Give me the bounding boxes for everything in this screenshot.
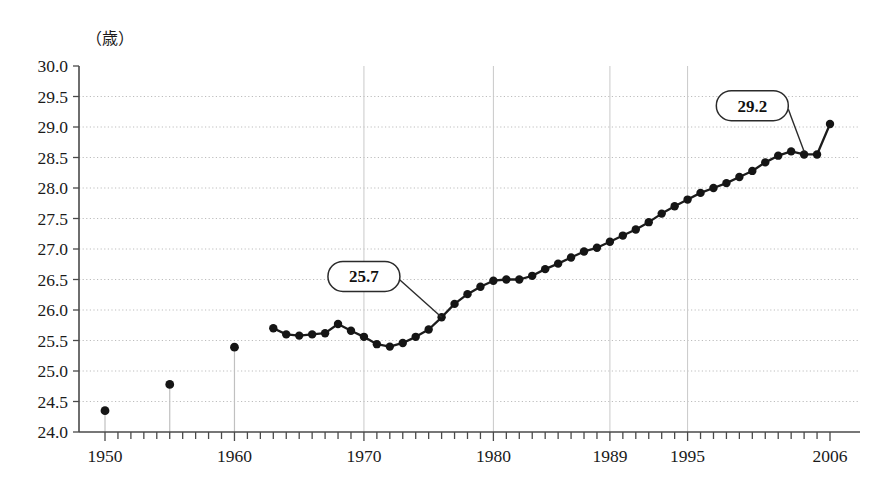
data-point-1972	[386, 342, 394, 350]
data-point-1963	[269, 324, 277, 332]
y-axis-tick-labels: 30.029.529.028.528.027.527.026.526.025.5…	[37, 56, 68, 442]
data-point-1970	[360, 333, 368, 341]
data-point-1966	[308, 330, 316, 338]
data-point-1982	[515, 275, 523, 283]
y-tick-label: 29.0	[37, 117, 68, 137]
line-chart-figure: 30.029.529.028.528.027.527.026.526.025.5…	[0, 0, 887, 487]
data-point-1997	[709, 184, 717, 192]
data-point-1999	[735, 173, 743, 181]
callout-label: 29.2	[737, 97, 767, 116]
y-tick-label: 24.5	[37, 392, 68, 412]
data-point-1995	[683, 195, 691, 203]
data-point-1983	[528, 272, 536, 280]
data-point-1992	[645, 218, 653, 226]
data-point-1981	[502, 275, 510, 283]
data-point-1955	[165, 380, 174, 389]
y-tick-label: 27.0	[37, 239, 68, 259]
y-tick-label: 29.5	[37, 87, 68, 107]
x-tick-label: 1950	[88, 446, 123, 466]
data-point-1980	[489, 277, 497, 285]
y-tick-label: 27.5	[37, 209, 68, 229]
x-tick-label: 1995	[670, 446, 705, 466]
data-point-1994	[670, 202, 678, 210]
y-tick-label: 25.5	[37, 331, 68, 351]
x-tick-label: 1960	[217, 446, 252, 466]
chart-canvas: 30.029.529.028.528.027.527.026.526.025.5…	[0, 0, 887, 487]
data-point-1975	[424, 325, 432, 333]
data-point-1989	[606, 237, 614, 245]
data-point-1996	[696, 189, 704, 197]
data-point-2000	[748, 167, 756, 175]
y-tick-label: 25.0	[37, 361, 68, 381]
data-point-2006	[826, 120, 834, 128]
x-tick-label: 1970	[346, 446, 381, 466]
data-point-1971	[373, 340, 381, 348]
data-point-2004	[800, 150, 808, 158]
data-point-1960	[230, 343, 239, 352]
data-point-1987	[580, 247, 588, 255]
data-point-2003	[787, 147, 795, 155]
callout-leader-29.2	[788, 109, 804, 151]
data-point-1973	[399, 339, 407, 347]
data-point-1985	[554, 259, 562, 267]
data-point-1978	[463, 290, 471, 298]
data-point-1977	[450, 300, 458, 308]
data-point-1964	[282, 330, 290, 338]
y-tick-label: 28.5	[37, 148, 68, 168]
horizontal-gridlines	[79, 97, 860, 402]
data-point-1968	[334, 320, 342, 328]
data-point-1991	[632, 225, 640, 233]
y-axis-ticks	[73, 66, 79, 432]
callout-leader-25.7	[400, 280, 442, 317]
value-callouts: 25.729.2	[328, 91, 804, 318]
data-point-1986	[567, 253, 575, 261]
y-tick-label: 28.0	[37, 178, 68, 198]
data-point-1998	[722, 179, 730, 187]
data-point-1988	[593, 244, 601, 252]
data-point-2002	[774, 151, 782, 159]
y-tick-label: 26.0	[37, 300, 68, 320]
data-point-2001	[761, 158, 769, 166]
data-point-1979	[476, 283, 484, 291]
isolated-point-stems	[105, 347, 234, 432]
callout-label: 25.7	[349, 267, 379, 286]
y-axis-unit-label: （歳）	[86, 30, 134, 47]
data-point-1990	[619, 231, 627, 239]
data-point-2005	[813, 150, 821, 158]
y-tick-label: 26.5	[37, 270, 68, 290]
x-tick-label: 1980	[476, 446, 511, 466]
data-point-1965	[295, 331, 303, 339]
data-point-1974	[412, 333, 420, 341]
data-point-1993	[657, 209, 665, 217]
x-axis-ticks	[105, 432, 830, 441]
x-tick-label: 1989	[592, 446, 627, 466]
y-tick-label: 24.0	[37, 422, 68, 442]
data-point-1967	[321, 329, 329, 337]
y-tick-label: 30.0	[37, 56, 68, 76]
x-axis-tick-labels: 1950196019701980198919952006	[88, 446, 848, 466]
data-point-1984	[541, 265, 549, 273]
data-point-1950	[101, 406, 110, 415]
x-tick-label: 2006	[813, 446, 848, 466]
data-point-1969	[347, 327, 355, 335]
